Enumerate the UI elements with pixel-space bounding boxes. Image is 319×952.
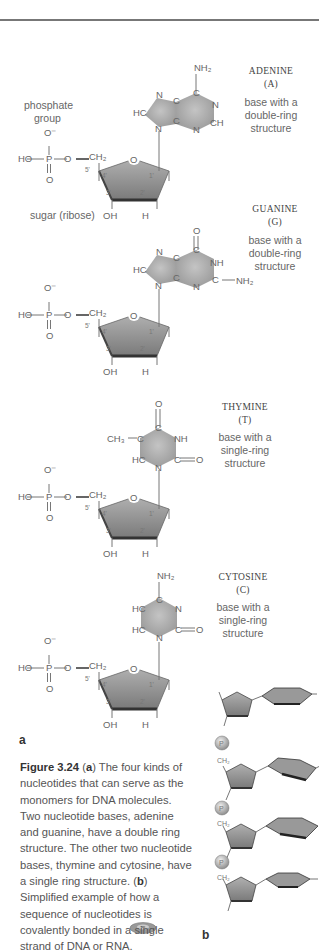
atom-label: OH: [103, 719, 117, 730]
carbon-number: 4': [102, 172, 107, 179]
carbon-number: 4': [102, 510, 107, 517]
atom-label: O: [130, 310, 137, 321]
atom-label: O: [130, 154, 137, 165]
atom-label: OH: [103, 548, 117, 559]
atom-label: O: [130, 492, 137, 503]
sugar-label: sugar (ribose): [30, 209, 95, 221]
atom-label: O: [64, 662, 71, 673]
base-name: CYTOSINE: [218, 572, 267, 582]
atom-label: O: [196, 454, 203, 465]
atom-label: C: [137, 433, 144, 444]
atom-label: N: [155, 280, 162, 291]
caption-part-a-text: The four kinds of nucleotides that can s…: [20, 761, 192, 887]
base-abbr: (T): [238, 415, 251, 426]
atom-label: HO: [18, 491, 32, 502]
carbon-number: 1': [149, 172, 154, 179]
atom-label: P: [46, 309, 52, 320]
panel-a-label: a: [19, 733, 26, 747]
atom-label: N: [156, 246, 163, 257]
atom-label: O: [130, 663, 137, 674]
atom-label: C: [173, 115, 180, 126]
atom-label: C: [212, 274, 219, 285]
carbon-number: 5': [85, 322, 90, 329]
atom-label: NH₂: [157, 570, 175, 581]
atom-label: C: [175, 624, 182, 635]
atom-label: O: [64, 491, 71, 502]
base-desc-1: base with a: [216, 601, 269, 613]
phosphate-label: P: [219, 740, 224, 747]
atom-label: H: [142, 210, 149, 221]
atom-label: O: [193, 225, 200, 236]
carbon-number: 1': [149, 681, 154, 688]
caption-part-b-marker: b: [137, 875, 144, 887]
carbon-number: 1': [149, 510, 154, 517]
atom-label: H: [142, 366, 149, 377]
base-abbr: (C): [236, 585, 250, 596]
atom-label: NH: [174, 433, 188, 444]
dna-strand-diagram: P CH₂ P CH₂ P CH₂: [215, 688, 319, 911]
atom-label: C: [174, 454, 181, 465]
panel-b-label: b: [202, 928, 209, 942]
base-desc-1: base with a: [248, 234, 301, 246]
atom-label: C: [173, 95, 180, 106]
base-desc-3: structure: [225, 457, 266, 469]
atom-label: CH₂: [89, 151, 107, 162]
base-desc-3: structure: [223, 627, 264, 639]
atom-label: O: [196, 624, 203, 635]
base-desc-2: single-ring: [221, 444, 270, 456]
atom-label: C: [193, 87, 200, 98]
phosphate-label: P: [219, 805, 224, 812]
base-desc-2: double-ring: [249, 247, 302, 259]
atom-label: OH: [103, 210, 117, 221]
base-desc-3: structure: [255, 260, 296, 272]
atom-label: O: [46, 683, 53, 694]
carbon-number: 4': [102, 328, 107, 335]
base-name: ADENINE: [249, 66, 293, 76]
phosphate-group-label: phosphate: [24, 99, 73, 111]
atom-label: N: [175, 603, 182, 614]
atom-label: HC: [132, 454, 146, 465]
atom-label: C: [156, 594, 163, 605]
atom-label: CH₃: [107, 433, 125, 444]
atom-label: O: [46, 330, 53, 341]
atom-label: O⁻: [44, 127, 56, 138]
atom-label: HO: [18, 662, 32, 673]
atom-label: O: [46, 512, 53, 523]
base-abbr: (G): [268, 217, 282, 228]
carbon-number: 3': [106, 698, 111, 705]
atom-label: NH₂: [194, 62, 212, 73]
atom-label: N: [156, 632, 163, 643]
atom-label: P: [46, 153, 52, 164]
atom-label: N: [212, 99, 219, 110]
atom-label: N: [193, 124, 200, 135]
guanine-nucleotide: O⁻ HO P O O CH₂ O 5' 4' 3' 2' 1' OH H O …: [18, 204, 302, 377]
atom-label: HC: [133, 107, 147, 118]
atom-label: C: [173, 272, 180, 283]
ch2-label: CH₂: [217, 757, 230, 764]
base-name: THYMINE: [222, 402, 268, 412]
atom-label: O⁻: [44, 635, 56, 646]
caption-part-a-marker: a: [86, 761, 92, 773]
atom-label: CH₂: [89, 660, 107, 671]
carbon-number: 1': [149, 328, 154, 335]
atom-label: CH₂: [89, 489, 107, 500]
figure-caption: Figure 3.24 (a) The four kinds of nucleo…: [20, 759, 195, 952]
carbon-number: 2': [140, 527, 145, 534]
base-desc-2: single-ring: [219, 614, 268, 626]
atom-label: O: [64, 153, 71, 164]
adenine-nucleotide: phosphate group O⁻ HO P O O CH₂ O 5' 4' …: [18, 62, 298, 221]
atom-label: H: [142, 548, 149, 559]
thymine-nucleotide: O⁻ HO P O O CH₂ O 5' 4' 3' 2' 1' OH H O …: [18, 398, 272, 559]
base-desc-1: base with a: [218, 431, 271, 443]
atom-label: H: [142, 719, 149, 730]
atom-label: N: [193, 281, 200, 292]
carbon-number: 4': [102, 681, 107, 688]
atom-label: O: [155, 398, 162, 409]
atom-label: P: [46, 491, 52, 502]
atom-label: C: [173, 252, 180, 263]
carbon-number: 3': [106, 189, 111, 196]
atom-label: N: [155, 462, 162, 473]
atom-label: HC: [132, 603, 146, 614]
atom-label: NH₂: [236, 275, 254, 286]
base-desc-3: structure: [251, 122, 292, 134]
